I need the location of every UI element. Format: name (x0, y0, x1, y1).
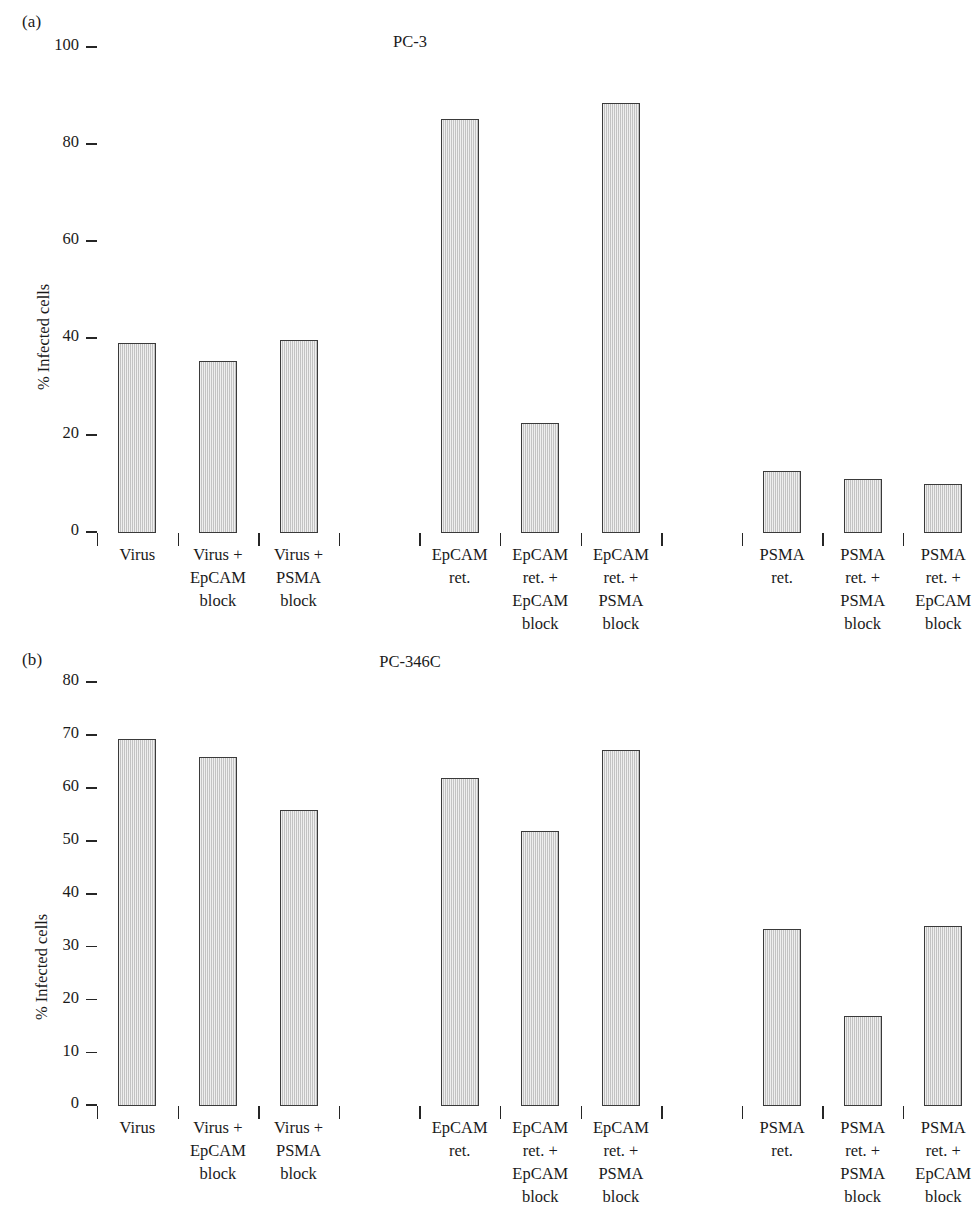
bar (924, 926, 962, 1106)
bar (280, 810, 318, 1106)
panel-a: (a) PC-3 % Infected cells 020406080100Vi… (0, 0, 920, 640)
y-tick-b-40: 40 (86, 893, 97, 895)
panel-b-title: PC-346C (0, 652, 870, 672)
y-tick-label: 40 (63, 882, 80, 902)
y-tick-b-30: 30 (86, 946, 97, 948)
bar (521, 423, 559, 533)
y-tick-label: 40 (63, 326, 80, 346)
x-category-label: PSMA ret. + EpCAM block (888, 1116, 976, 1208)
bar (199, 757, 237, 1106)
y-tick-label: 20 (63, 988, 80, 1008)
x-category-label: PSMA ret. + EpCAM block (888, 543, 976, 635)
bar (441, 778, 479, 1106)
bar (844, 479, 882, 533)
y-tick-label: 70 (63, 723, 80, 743)
bar (602, 750, 640, 1106)
panel-b: (b) PC-346C % Infected cells 01020304050… (0, 640, 920, 1226)
y-tick-label: 10 (63, 1041, 80, 1061)
bar (199, 361, 237, 533)
bar (924, 484, 962, 533)
x-category-label: EpCAM ret. + PSMA block (566, 1116, 676, 1208)
y-tick-label: 100 (54, 35, 79, 55)
bar (118, 343, 156, 533)
y-tick-b-10: 10 (86, 1052, 97, 1054)
y-tick-label: 80 (63, 132, 80, 152)
x-category-label: Virus + PSMA block (244, 543, 354, 612)
bar (521, 831, 559, 1106)
y-tick-label: 20 (63, 423, 80, 443)
y-tick-label: 0 (71, 520, 79, 540)
panel-a-tag: (a) (22, 12, 41, 32)
y-tick-a-40: 40 (86, 337, 97, 339)
y-tick-b-60: 60 (86, 787, 97, 789)
y-tick-label: 30 (63, 935, 80, 955)
y-tick-label: 0 (71, 1093, 79, 1113)
bar (602, 103, 640, 533)
bar (280, 340, 318, 533)
y-tick-a-60: 60 (86, 240, 97, 242)
bar (844, 1016, 882, 1106)
y-tick-b-70: 70 (86, 734, 97, 736)
bar (763, 471, 801, 533)
x-category-label: Virus + PSMA block (244, 1116, 354, 1185)
y-tick-b-50: 50 (86, 840, 97, 842)
y-tick-a-100: 100 (86, 46, 97, 48)
panel-a-y-axis-label: % Infected cells (34, 284, 54, 390)
y-tick-label: 50 (63, 829, 80, 849)
panel-b-y-axis-label: % Infected cells (32, 914, 52, 1020)
y-tick-b-20: 20 (86, 999, 97, 1001)
panel-b-plot-area: 01020304050607080VirusVirus + EpCAM bloc… (97, 683, 903, 1106)
y-tick-label: 60 (63, 229, 80, 249)
y-tick-label: 80 (63, 670, 80, 690)
bar (441, 119, 479, 533)
panel-a-plot-area: 020406080100VirusVirus + EpCAM blockViru… (97, 48, 903, 533)
x-category-label: EpCAM ret. + PSMA block (566, 543, 676, 635)
bar (118, 739, 156, 1106)
y-tick-label: 60 (63, 776, 80, 796)
y-tick-a-20: 20 (86, 434, 97, 436)
y-tick-a-0: 0 (86, 531, 97, 533)
y-tick-b-80: 80 (86, 681, 97, 683)
y-tick-b-0: 0 (86, 1104, 97, 1106)
bar (763, 929, 801, 1106)
y-tick-a-80: 80 (86, 143, 97, 145)
